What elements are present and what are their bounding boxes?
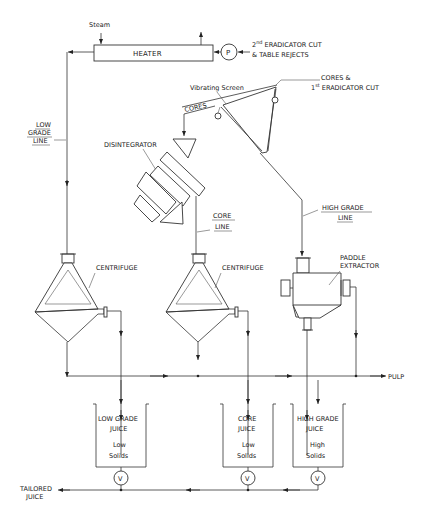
svg-text:LINE: LINE: [33, 137, 48, 145]
valve-core: V: [241, 467, 255, 490]
heater: HEATER: [94, 32, 213, 61]
svg-text:V: V: [118, 475, 123, 483]
svg-text:Vibrating Screen: Vibrating Screen: [190, 84, 244, 92]
svg-text:HIGH GRADE: HIGH GRADE: [322, 204, 364, 212]
svg-text:& TABLE REJECTS: & TABLE REJECTS: [252, 51, 309, 59]
paddle-extractor: PADDLE EXTRACTOR: [281, 254, 380, 330]
tailored-juice-label: TAILORED JUICE: [19, 485, 52, 501]
high-grade-line-label: HIGH GRADE LINE: [321, 204, 372, 222]
svg-text:LOW: LOW: [36, 121, 52, 129]
svg-text:Solids: Solids: [237, 452, 257, 460]
pulp-label: PULP: [388, 373, 404, 381]
high-grade-line: [260, 153, 302, 256]
svg-text:CENTRIFUGE: CENTRIFUGE: [222, 264, 264, 272]
svg-text:LINE: LINE: [215, 223, 230, 231]
valve-high-grade: V: [311, 467, 325, 490]
svg-text:CORES &: CORES &: [321, 74, 351, 82]
core-line-label: CORE LINE: [212, 212, 235, 231]
svg-text:GRADE: GRADE: [28, 129, 51, 137]
svg-text:1st ERADICATOR CUT: 1st ERADICATOR CUT: [311, 82, 379, 92]
svg-text:EXTRACTOR: EXTRACTOR: [340, 262, 380, 270]
disintegrator: DISINTEGRATOR: [104, 139, 205, 224]
svg-text:JUICE: JUICE: [25, 493, 43, 501]
svg-text:CORE: CORE: [238, 415, 256, 423]
steam-input: Steam: [89, 21, 110, 44]
svg-text:Low: Low: [242, 441, 255, 449]
svg-text:HEATER: HEATER: [133, 50, 162, 58]
svg-text:HIGH GRADE: HIGH GRADE: [297, 415, 339, 423]
svg-text:JUICE: JUICE: [305, 425, 323, 433]
svg-text:CORE: CORE: [213, 212, 231, 220]
centrifuge-2: CENTRIFUGE: [166, 254, 264, 342]
process-flow-diagram: Steam HEATER P 2nd ERADICATOR CUT & TABL…: [0, 0, 424, 527]
eradicator-cut-2-label: 2nd ERADICATOR CUT & TABLE REJECTS: [252, 39, 322, 59]
svg-text:V: V: [245, 475, 250, 483]
cores-eradicator-label: CORES & 1st ERADICATOR CUT: [311, 74, 379, 92]
svg-text:High: High: [310, 441, 325, 449]
svg-text:P: P: [226, 49, 230, 57]
svg-text:LOW GRADE: LOW GRADE: [98, 415, 138, 423]
pump: P: [214, 44, 250, 60]
svg-text:PADDLE: PADDLE: [340, 254, 366, 262]
svg-text:JUICE: JUICE: [237, 425, 255, 433]
svg-text:Low: Low: [113, 441, 126, 449]
svg-text:V: V: [315, 475, 320, 483]
svg-text:2nd ERADICATOR CUT: 2nd ERADICATOR CUT: [252, 39, 322, 49]
centrifuge-1: CENTRIFUGE: [35, 254, 138, 342]
vibrating-screen: Vibrating Screen: [182, 80, 320, 153]
svg-text:Steam: Steam: [89, 21, 110, 29]
svg-text:Solids: Solids: [109, 452, 129, 460]
valve-low-grade: V: [114, 467, 128, 490]
svg-text:CENTRIFUGE: CENTRIFUGE: [96, 264, 138, 272]
svg-text:DISINTEGRATOR: DISINTEGRATOR: [104, 141, 157, 149]
svg-text:LINE: LINE: [338, 214, 353, 222]
svg-text:TAILORED: TAILORED: [19, 485, 52, 493]
tank-high-grade-juice: HIGH GRADE JUICE High Solids: [290, 404, 346, 467]
svg-text:Solids: Solids: [306, 452, 326, 460]
cores-label: CORES: [184, 101, 208, 113]
svg-text:JUICE: JUICE: [109, 425, 127, 433]
low-grade-line-label: LOW GRADE LINE: [27, 121, 66, 145]
